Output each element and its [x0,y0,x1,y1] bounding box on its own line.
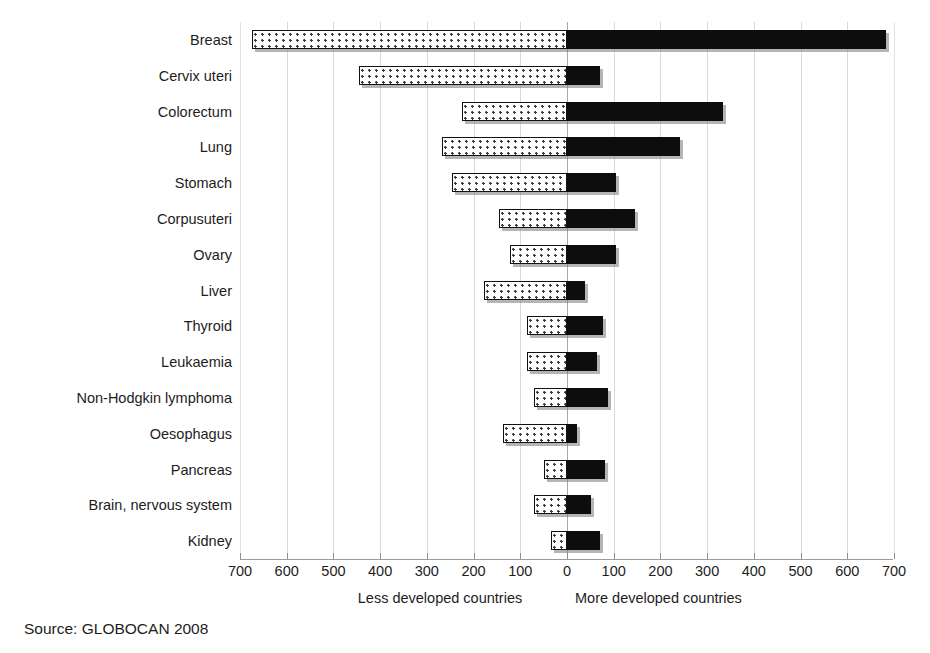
category-label: Thyroid [0,318,232,334]
bar-more-developed [567,281,585,300]
bar-less-developed [503,424,567,443]
x-axis-tick [427,553,428,559]
category-label: Leukaemia [0,354,232,370]
bar-less-developed [452,173,567,192]
x-axis-tick [707,553,708,559]
bar-more-developed [567,173,616,192]
bar-more-developed [567,66,600,85]
x-axis-tick-label: 700 [220,563,260,580]
bar-less-developed [551,531,567,550]
bar-row [240,22,893,59]
x-axis-tick-label: 200 [454,563,494,580]
bar-less-developed [442,137,567,156]
x-axis-tick [847,553,848,559]
category-label: Pancreas [0,462,232,478]
axis-caption-more-developed: More developed countries [575,590,815,607]
bar-more-developed [567,424,577,443]
bar-row [240,487,893,524]
x-axis-tick [660,553,661,559]
x-axis-tick-label: 400 [360,563,400,580]
bar-row [240,416,893,453]
bar-more-developed [567,209,635,228]
bar-row [240,129,893,166]
x-axis-tick-label: 500 [781,563,821,580]
bar-less-developed [527,316,567,335]
bar-row [240,308,893,345]
bar-less-developed [534,495,567,514]
category-label: Kidney [0,533,232,549]
x-axis-tick [474,553,475,559]
x-axis-line [240,559,893,560]
source-note: Source: GLOBOCAN 2008 [24,620,208,638]
bar-row [240,380,893,417]
plot-area [240,22,893,559]
bar-more-developed [567,531,600,550]
x-axis-tick-label: 100 [594,563,634,580]
x-axis-tick-label: 300 [687,563,727,580]
bar-less-developed [359,66,567,85]
x-axis-tick-label: 0 [547,563,587,580]
x-axis-tick-label: 100 [500,563,540,580]
bar-row [240,344,893,381]
x-axis-tick [240,553,241,559]
bar-row [240,452,893,489]
bar-less-developed [499,209,567,228]
x-axis-tick-label: 600 [267,563,307,580]
bar-more-developed [567,495,591,514]
category-label: Colorectum [0,104,232,120]
category-label: Corpusuteri [0,211,232,227]
category-label: Oesophagus [0,426,232,442]
bar-less-developed [510,245,567,264]
bar-less-developed [484,281,567,300]
x-axis-tick-label: 600 [827,563,867,580]
bar-more-developed [567,102,723,121]
bar-more-developed [567,316,603,335]
bar-less-developed [462,102,567,121]
x-axis-tick [520,553,521,559]
gridline [894,22,895,559]
x-axis-tick [614,553,615,559]
category-label: Liver [0,283,232,299]
x-axis-tick-label: 400 [734,563,774,580]
bar-less-developed [544,460,567,479]
bar-row [240,165,893,202]
bar-row [240,94,893,131]
bar-more-developed [567,245,616,264]
bar-less-developed [252,30,567,49]
category-label: Stomach [0,175,232,191]
axis-caption-less-developed: Less developed countries [320,590,560,607]
bar-less-developed [527,352,567,371]
bar-more-developed [567,460,605,479]
category-axis-labels: BreastCervix uteriColorectumLungStomachC… [0,22,232,559]
category-label: Brain, nervous system [0,497,232,513]
bar-more-developed [567,137,680,156]
category-label: Cervix uteri [0,68,232,84]
bar-more-developed [567,30,886,49]
x-axis-tick [754,553,755,559]
x-axis-tick [380,553,381,559]
category-label: Breast [0,32,232,48]
bar-row [240,58,893,95]
bar-row [240,201,893,238]
x-axis-tick [801,553,802,559]
category-label: Ovary [0,247,232,263]
bar-more-developed [567,388,608,407]
category-label: Lung [0,139,232,155]
category-label: Non-Hodgkin lymphoma [0,390,232,406]
x-axis-tick-label: 200 [640,563,680,580]
bar-row [240,273,893,310]
x-axis-tick-label: 300 [407,563,447,580]
x-axis-tick [567,553,568,559]
x-axis-tick-label: 500 [313,563,353,580]
x-axis-tick [894,553,895,559]
bar-less-developed [534,388,567,407]
x-axis-tick [333,553,334,559]
bar-row [240,237,893,274]
cancer-incidence-diverging-bar-chart: BreastCervix uteriColorectumLungStomachC… [0,0,930,653]
x-axis-tick [287,553,288,559]
x-axis-tick-label: 700 [874,563,914,580]
bar-more-developed [567,352,597,371]
